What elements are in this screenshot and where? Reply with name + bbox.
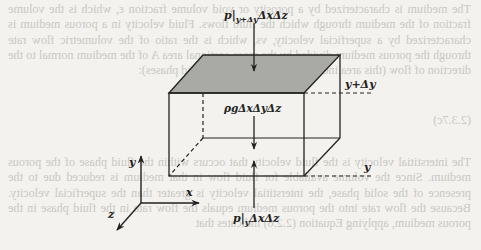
z-axis-label: z	[107, 208, 115, 221]
body-force-label: ρgΔxΔyΔz	[223, 102, 282, 114]
z-axis-arrow	[117, 203, 141, 230]
lower-plane-label: y	[363, 161, 372, 174]
y-axis-label: y	[128, 156, 137, 169]
top-force-label: p|y+ΔyΔxΔz	[224, 9, 289, 24]
x-axis-label: x	[185, 186, 193, 199]
bottom-force-label: p|yΔxΔz	[233, 212, 280, 227]
control-volume-diagram: p|y+ΔyΔxΔz ρgΔxΔyΔz p|yΔxΔz y+Δy y y x z	[0, 0, 481, 250]
upper-plane-label: y+Δy	[344, 78, 377, 91]
